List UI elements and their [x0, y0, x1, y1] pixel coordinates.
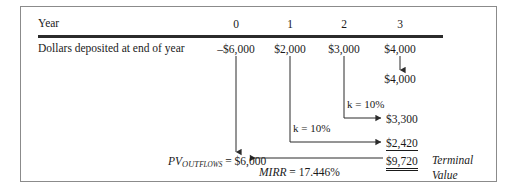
pv-outflows-label: PVOUTFLOWS = $6,000 [168, 155, 266, 169]
mirr-timeline-figure: Year Dollars deposited at end of year 0 … [0, 0, 514, 190]
pv-subscript-flows: FLOWS [199, 161, 222, 169]
header-rule [38, 35, 443, 38]
cashflow-year-3: $4,000 [362, 43, 438, 55]
terminal-value-amount: $9,720 [386, 155, 418, 171]
year-header-3: 3 [362, 18, 438, 30]
row-label-year: Year [38, 18, 59, 30]
terminal-caption-line1: Terminal [432, 153, 473, 168]
pv-symbol: PV [168, 155, 182, 167]
terminal-caption-line2: Value [432, 168, 473, 183]
row-label-cashflow: Dollars deposited at end of year [38, 43, 185, 55]
future-value-year1: $2,420 [386, 137, 418, 151]
pv-subscript-out: OUT [182, 160, 199, 169]
mirr-label: MIRR = 17.446% [259, 166, 340, 178]
terminal-value-caption: Terminal Value [432, 153, 473, 182]
mirr-value: = 17.446% [289, 166, 340, 178]
future-value-year3: $4,000 [362, 73, 438, 85]
rate-label-year1: k = 10% [293, 122, 330, 134]
rate-label-year2: k = 10% [347, 98, 384, 110]
future-value-year2: $3,300 [386, 113, 418, 125]
mirr-symbol: MIRR [259, 166, 286, 178]
